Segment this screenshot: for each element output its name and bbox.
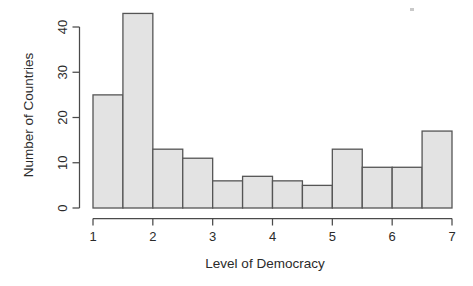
histogram-bar: [93, 95, 123, 208]
x-axis-tick-label: 3: [209, 229, 216, 244]
histogram-bar: [123, 13, 153, 208]
x-axis-tick-label: 6: [389, 229, 396, 244]
histogram-bar: [183, 158, 213, 208]
bars-group: [93, 13, 452, 208]
histogram-chart: 010203040 1234567 Number of Countries Le…: [0, 0, 473, 286]
histogram-bar: [422, 131, 452, 208]
y-axis-tick-label: 10: [55, 156, 70, 170]
x-axis-tick-label: 7: [448, 229, 455, 244]
y-axis-tick-label: 30: [55, 65, 70, 79]
y-axis-tick-label: 20: [55, 110, 70, 124]
x-axis-title: Level of Democracy: [205, 256, 325, 271]
x-axis-tick-label: 2: [149, 229, 156, 244]
histogram-bar: [362, 167, 392, 208]
x-axis-tick-labels: 1234567: [89, 229, 455, 244]
histogram-bar: [153, 149, 183, 208]
x-axis-tick-label: 1: [89, 229, 96, 244]
histogram-bar: [302, 185, 332, 208]
y-axis-ticks: [73, 27, 80, 208]
y-axis-tick-label: 0: [55, 204, 70, 211]
x-axis-tick-label: 5: [329, 229, 336, 244]
x-axis-tick-label: 4: [269, 229, 276, 244]
plot-canvas: 010203040 1234567 Number of Countries Le…: [0, 0, 473, 286]
x-axis-ticks: [93, 219, 452, 226]
y-axis-tick-labels: 010203040: [55, 20, 70, 212]
histogram-bar: [213, 181, 243, 208]
histogram-bar: [273, 181, 303, 208]
y-axis-title: Number of Countries: [21, 52, 36, 177]
histogram-bar: [392, 167, 422, 208]
histogram-bar: [332, 149, 362, 208]
histogram-bar: [243, 176, 273, 208]
scan-speck: [410, 8, 414, 11]
y-axis-tick-label: 40: [55, 20, 70, 34]
